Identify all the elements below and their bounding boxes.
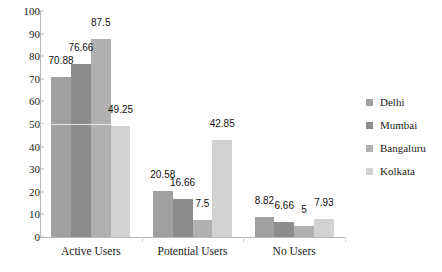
bar-value-label: 5 xyxy=(301,204,307,215)
bar-value-label: 8.82 xyxy=(255,195,274,206)
bar-delhi-no-users[interactable] xyxy=(255,217,275,237)
bar-value-label: 16.66 xyxy=(170,177,195,188)
legend-swatch-icon xyxy=(366,99,373,106)
legend-item-label: Mumbai xyxy=(380,119,417,131)
bar-kolkata-active-users[interactable] xyxy=(111,126,131,237)
bar-slot: 76.66 xyxy=(71,11,91,237)
legend-item-delhi[interactable]: Delhi xyxy=(366,96,426,108)
bar-slot: 16.66 xyxy=(173,11,193,237)
x-axis-category-tick xyxy=(142,237,143,242)
bar-slot: 20.58 xyxy=(153,11,173,237)
chart-legend: DelhiMumbaiBangaluruKolkata xyxy=(366,96,426,177)
legend-item-kolkata[interactable]: Kolkata xyxy=(366,165,426,177)
bar-delhi-potential-users[interactable] xyxy=(153,191,173,238)
bar-value-label: 49.25 xyxy=(108,104,133,115)
bar-bangaluru-potential-users[interactable] xyxy=(193,220,213,237)
bar-kolkata-no-users[interactable] xyxy=(314,219,334,237)
bar-slot: 7.93 xyxy=(314,11,334,237)
legend-item-label: Kolkata xyxy=(380,165,415,177)
bar-group: 20.5816.667.542.85 xyxy=(153,11,232,237)
bar-value-label: 87.5 xyxy=(91,17,110,28)
bar-value-label: 7.93 xyxy=(314,197,333,208)
legend-item-label: Bangaluru xyxy=(380,142,426,154)
bar-value-label: 7.5 xyxy=(195,198,209,209)
bar-value-label: 76.66 xyxy=(68,42,93,53)
bar-bangaluru-active-users[interactable] xyxy=(91,39,111,237)
plot-area: 70.8876.6687.549.2520.5816.667.542.858.8… xyxy=(40,11,345,237)
x-axis-label-no-users: No Users xyxy=(273,245,316,257)
bar-mumbai-no-users[interactable] xyxy=(274,222,294,237)
legend-item-bangaluru[interactable]: Bangaluru xyxy=(366,142,426,154)
legend-item-label: Delhi xyxy=(380,96,404,108)
x-axis-line xyxy=(40,237,346,238)
bar-delhi-active-users[interactable] xyxy=(51,77,71,237)
bar-slot: 8.82 xyxy=(255,11,275,237)
legend-swatch-icon xyxy=(366,168,373,175)
bar-group: 8.826.6657.93 xyxy=(255,11,334,237)
x-axis-category-tick xyxy=(243,237,244,242)
x-axis-label-potential-users: Potential Users xyxy=(158,245,228,257)
bar-slot: 42.85 xyxy=(212,11,232,237)
bar-group: 70.8876.6687.549.25 xyxy=(51,11,130,237)
bar-value-label: 6.66 xyxy=(275,200,294,211)
bar-group-bars: 8.826.6657.93 xyxy=(255,11,334,237)
bar-slot: 5 xyxy=(294,11,314,237)
bar-group-bars: 70.8876.6687.549.25 xyxy=(51,11,130,237)
bar-mumbai-potential-users[interactable] xyxy=(173,199,193,237)
bar-bangaluru-no-users[interactable] xyxy=(294,226,314,237)
bar-value-label: 42.85 xyxy=(210,118,235,129)
bar-slot: 49.25 xyxy=(111,11,131,237)
x-axis-category-tick xyxy=(345,237,346,242)
bar-group-bars: 20.5816.667.542.85 xyxy=(153,11,232,237)
bar-slot: 87.5 xyxy=(91,11,111,237)
bar-kolkata-potential-users[interactable] xyxy=(212,140,232,237)
bar-chart: 0102030405060708090100 70.8876.6687.549.… xyxy=(0,0,442,272)
bar-value-label: 70.88 xyxy=(49,55,74,66)
legend-swatch-icon xyxy=(366,145,373,152)
legend-swatch-icon xyxy=(366,122,373,129)
bar-mumbai-active-users[interactable] xyxy=(71,64,91,237)
bar-slot: 6.66 xyxy=(274,11,294,237)
legend-item-mumbai[interactable]: Mumbai xyxy=(366,119,426,131)
x-axis-label-active-users: Active Users xyxy=(61,245,121,257)
